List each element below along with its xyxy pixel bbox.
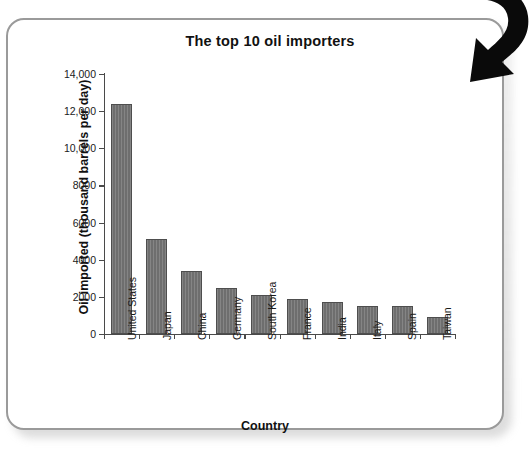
x-axis-category-label: Spain (406, 313, 418, 340)
x-axis-tick-mark (420, 334, 421, 339)
y-axis-tick-label: 12,000 (64, 105, 96, 117)
x-axis-tick-mark (104, 334, 105, 339)
y-axis-tick-label: 14,000 (64, 68, 96, 80)
chart-title: The top 10 oil importers (120, 33, 420, 49)
y-axis-tick-label: 6000 (73, 217, 96, 229)
x-axis-tick-mark (385, 334, 386, 339)
x-axis-category-label: India (336, 317, 348, 340)
y-axis-tick-mark (99, 297, 104, 298)
y-axis-tick-mark (99, 260, 104, 261)
x-axis-tick-mark (315, 334, 316, 339)
y-axis-tick-mark (99, 74, 104, 75)
x-axis-category-label: China (196, 313, 208, 340)
y-axis-tick-label: 10,000 (64, 142, 96, 154)
y-axis-tick-mark (99, 148, 104, 149)
x-axis-category-label: Germany (231, 297, 243, 340)
x-axis-tick-mark (455, 334, 456, 339)
x-axis-category-label: United States (126, 277, 138, 340)
x-axis-tick-mark (280, 334, 281, 339)
x-axis-tick-mark (209, 334, 210, 339)
x-axis-category-label: Japan (161, 311, 173, 340)
y-axis-tick-label: 4000 (73, 254, 96, 266)
x-axis-title: Country (100, 419, 430, 433)
x-axis-tick-mark (139, 334, 140, 339)
x-axis-tick-mark (174, 334, 175, 339)
y-axis-tick-mark (99, 111, 104, 112)
y-axis-tick-label: 8000 (73, 179, 96, 191)
y-axis-tick-label: 2000 (73, 291, 96, 303)
y-axis-tick-mark (99, 223, 104, 224)
x-axis-tick-mark (350, 334, 351, 339)
x-axis-tick-mark (244, 334, 245, 339)
x-axis-category-label: Taiwan (441, 307, 453, 340)
x-axis-category-label: France (301, 307, 313, 340)
y-axis-tick-label: 0 (90, 328, 96, 340)
x-axis-category-label: Italy (371, 321, 383, 340)
plot-area: 0200040006000800010,00012,00014,000 Unit… (104, 74, 455, 334)
x-axis-category-label: South Korea (266, 282, 278, 340)
y-axis-tick-mark (99, 185, 104, 186)
